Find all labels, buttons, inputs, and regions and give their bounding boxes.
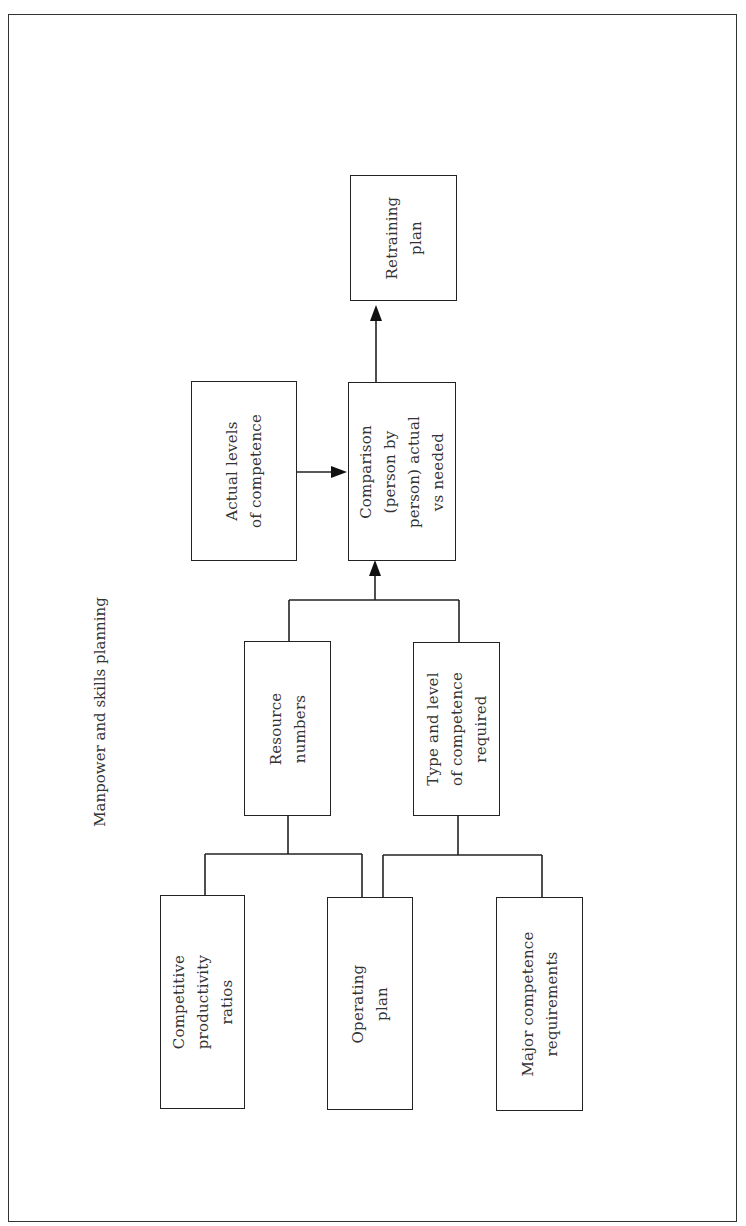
node-resource-numbers: Resource numbers xyxy=(244,641,331,816)
arrowhead-icon xyxy=(331,466,347,478)
node-comparison: Comparison (person by person) actual vs … xyxy=(348,382,456,561)
node-operating-plan: Operating plan xyxy=(327,897,413,1110)
node-label: Major competence requirements xyxy=(516,931,564,1076)
node-label: Competitive productivity ratios xyxy=(167,955,239,1049)
node-type-level: Type and level of competence required xyxy=(413,642,500,816)
node-label: Type and level of competence required xyxy=(421,672,493,786)
diagram-title: Manpower and skills planning xyxy=(91,597,109,827)
node-competitive-ratios: Competitive productivity ratios xyxy=(160,895,245,1109)
node-label: Retraining plan xyxy=(380,197,428,280)
node-label: Actual levels of competence xyxy=(220,414,268,528)
arrowhead-icon xyxy=(370,305,382,321)
node-label: Comparison (person by person) actual vs … xyxy=(354,415,450,527)
node-label: Operating plan xyxy=(346,964,394,1043)
arrowhead-icon xyxy=(369,560,381,576)
node-actual-levels: Actual levels of competence xyxy=(191,381,297,561)
node-retraining-plan: Retraining plan xyxy=(350,175,457,301)
node-label: Resource numbers xyxy=(264,692,312,765)
node-major-competence: Major competence requirements xyxy=(496,897,583,1111)
